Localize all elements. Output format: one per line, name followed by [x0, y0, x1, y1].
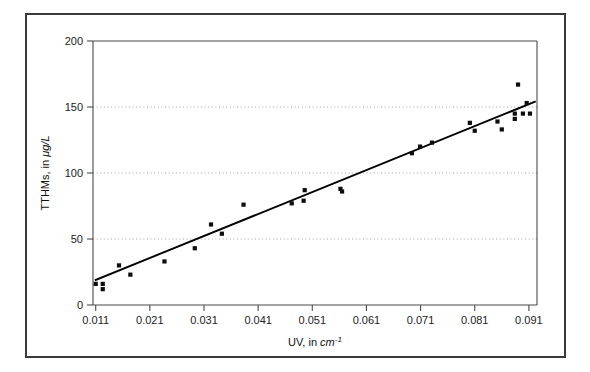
data-point	[303, 188, 307, 192]
regression-line	[96, 102, 535, 280]
x-tick-label: 0.011	[82, 314, 109, 326]
x-tick-label: 0.081	[461, 314, 489, 326]
y-axis-title: TTHMs, in μg/L	[39, 135, 51, 210]
gridlines-group	[93, 107, 537, 239]
data-point	[410, 151, 414, 155]
data-point	[101, 282, 105, 286]
fit-line	[96, 102, 535, 280]
data-point	[162, 259, 166, 263]
x-tick-label: 0.071	[407, 314, 435, 326]
data-point	[516, 82, 520, 86]
data-point	[528, 112, 532, 116]
data-point	[340, 189, 344, 193]
y-tick-label: 50	[71, 233, 83, 245]
data-point	[94, 282, 98, 286]
y-axis-title-unit: μg/L	[39, 135, 51, 157]
tick-labels-group: 0501001502000.0110.0210.0310.0410.0510.0…	[65, 35, 543, 326]
x-tick-label: 0.031	[190, 314, 218, 326]
axes-group	[93, 41, 537, 305]
x-axis-title-exponent: -1	[335, 335, 342, 344]
y-tick-label: 100	[65, 167, 83, 179]
x-tick-label: 0.051	[299, 314, 327, 326]
data-point	[468, 121, 472, 125]
x-axis-title-prefix: UV, in	[288, 336, 320, 348]
data-point	[495, 119, 499, 123]
y-axis-title-prefix: TTHMs, in	[39, 157, 51, 211]
x-tick-label: 0.041	[244, 314, 272, 326]
x-tick-label: 0.061	[353, 314, 381, 326]
x-axis-title-unit: cm	[320, 336, 335, 348]
data-point	[513, 117, 517, 121]
data-point	[500, 127, 504, 131]
data-point	[302, 199, 306, 203]
data-point	[220, 232, 224, 236]
data-point	[128, 273, 132, 277]
ticks-group	[87, 41, 529, 311]
data-point	[209, 222, 213, 226]
data-point	[241, 203, 245, 207]
data-point	[290, 201, 294, 205]
x-tick-label: 0.021	[136, 314, 164, 326]
data-point	[193, 246, 197, 250]
scatter-plot: 0501001502000.0110.0210.0310.0410.0510.0…	[27, 15, 564, 356]
data-point	[473, 129, 477, 133]
data-point	[525, 101, 529, 105]
data-point	[430, 141, 434, 145]
figure-border: 0501001502000.0110.0210.0310.0410.0510.0…	[25, 13, 566, 358]
data-point	[101, 287, 105, 291]
data-point	[513, 112, 517, 116]
y-tick-label: 0	[77, 299, 83, 311]
data-point	[521, 112, 525, 116]
x-axis-title: UV, in cm-1	[288, 335, 342, 348]
figure-container: 0501001502000.0110.0210.0310.0410.0510.0…	[0, 0, 590, 372]
data-point	[117, 263, 121, 267]
data-points-group	[94, 82, 532, 291]
y-tick-label: 200	[65, 35, 83, 47]
y-tick-label: 150	[65, 101, 83, 113]
x-tick-label: 0.091	[515, 314, 543, 326]
data-point	[418, 145, 422, 149]
